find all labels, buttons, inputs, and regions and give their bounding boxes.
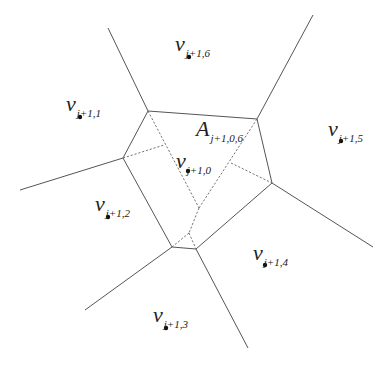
dashed-edge — [172, 233, 189, 247]
voronoi-edge — [20, 158, 123, 190]
site-label-v6: vj+1,6 — [175, 33, 210, 55]
dashed-edge — [189, 233, 196, 249]
voronoi-edge — [108, 28, 148, 111]
site-label-v3: vj+1,3 — [153, 304, 188, 326]
voronoi-edge — [257, 15, 313, 119]
site-label-v4: vj+1,4 — [253, 242, 288, 264]
site-label-v0: vj+1,0 — [176, 150, 211, 172]
dashed-edge — [189, 208, 199, 233]
area-label: Aj+1,0,6 — [196, 118, 243, 140]
voronoi-outer-edges — [20, 15, 373, 348]
voronoi-edge — [196, 249, 248, 348]
voronoi-edge — [85, 247, 172, 310]
site-label-v5: vj+1,5 — [328, 118, 363, 140]
site-label-v1: vj+1,1 — [66, 93, 101, 115]
voronoi-edge — [272, 183, 373, 247]
dashed-edge — [231, 163, 272, 183]
site-label-v2: vj+1,2 — [95, 193, 130, 215]
